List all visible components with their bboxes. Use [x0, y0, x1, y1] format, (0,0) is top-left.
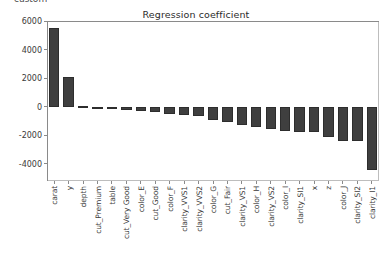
bar [323, 107, 333, 138]
x-axis-tick-label: color_J [338, 186, 347, 210]
bar [164, 107, 174, 114]
bar [222, 107, 232, 122]
y-axis: 6000400020000-2000-4000 [0, 21, 47, 181]
y-axis-tick-label: 0 [37, 102, 42, 111]
x-axis-tick-label: x [310, 186, 319, 190]
bar [294, 107, 304, 132]
x-axis-tick-mark [155, 181, 156, 184]
x-axis-tick-mark [213, 181, 214, 184]
y-axis-tick-label: -2000 [19, 131, 42, 140]
x-axis-tick-label: color_I [281, 186, 290, 210]
x-axis-tick-label: carat [50, 186, 59, 205]
bar [150, 107, 160, 113]
bar [251, 107, 261, 127]
x-axis-tick-label: cut_Very Good [122, 186, 131, 239]
x-axis-tick-label: color_H [252, 186, 261, 213]
x-axis-tick-mark [68, 181, 69, 184]
y-axis-tick-label: 2000 [22, 74, 42, 83]
x-axis-tick-mark [97, 181, 98, 184]
plot-area [47, 21, 379, 181]
x-axis-tick-label: y [64, 186, 73, 190]
bar [49, 28, 59, 107]
bar [237, 107, 247, 125]
x-axis-tick-label: color_G [209, 186, 218, 213]
x-axis-tick-label: cut_Fair [223, 186, 232, 214]
bar [352, 107, 362, 142]
bar [193, 107, 203, 116]
x-axis-tick-label: depth [79, 186, 88, 207]
bar [367, 107, 377, 171]
bar [280, 107, 290, 131]
x-axis-tick-mark [184, 181, 185, 184]
regression-coefficient-chart: Regression coefficient 6000400020000-200… [0, 4, 392, 262]
x-axis: caratydepthcut_Premiumtablecut_Very Good… [47, 181, 379, 261]
x-axis-tick-label: color_E [136, 186, 145, 212]
bar [78, 106, 88, 108]
x-axis-tick-mark [111, 181, 112, 184]
x-axis-tick-mark [270, 181, 271, 184]
x-axis-tick-mark [198, 181, 199, 184]
y-axis-tick-label: 4000 [22, 45, 42, 54]
x-axis-tick-label: clarity_SI1 [295, 186, 304, 224]
x-axis-tick-mark [357, 181, 358, 184]
x-axis-tick-mark [314, 181, 315, 184]
y-axis-tick-label: -4000 [19, 159, 42, 168]
bar [107, 107, 117, 109]
x-axis-tick-mark [140, 181, 141, 184]
bar [136, 107, 146, 112]
x-axis-tick-mark [371, 181, 372, 184]
x-axis-tick-mark [342, 181, 343, 184]
x-axis-tick-mark [169, 181, 170, 184]
x-axis-tick-label: z [324, 186, 333, 190]
bar [92, 107, 102, 109]
chart-title: Regression coefficient [0, 9, 392, 20]
x-axis-tick-label: clarity_I1 [367, 186, 376, 219]
bar [266, 107, 276, 129]
x-axis-tick-label: cut_Premium [93, 186, 102, 234]
x-axis-tick-mark [227, 181, 228, 184]
x-axis-tick-label: clarity_SI2 [353, 186, 362, 224]
x-axis-tick-label: clarity_VS2 [266, 186, 275, 227]
bar [309, 107, 319, 132]
bar [121, 107, 131, 110]
bar [63, 77, 73, 107]
bar [208, 107, 218, 121]
x-axis-tick-mark [54, 181, 55, 184]
x-axis-tick-label: table [107, 186, 116, 205]
x-axis-tick-mark [299, 181, 300, 184]
bar [338, 107, 348, 141]
x-axis-tick-label: clarity_VS1 [237, 186, 246, 227]
x-axis-tick-mark [285, 181, 286, 184]
bar-series [47, 21, 379, 181]
x-axis-tick-label: cut_Good [151, 186, 160, 221]
x-axis-tick-label: clarity_VVS1 [180, 186, 189, 232]
x-axis-tick-mark [256, 181, 257, 184]
x-axis-tick-mark [126, 181, 127, 184]
x-axis-tick-mark [328, 181, 329, 184]
x-axis-tick-label: color_F [165, 186, 174, 212]
bar [179, 107, 189, 115]
y-axis-tick-label: 6000 [22, 17, 42, 26]
x-axis-tick-mark [83, 181, 84, 184]
x-axis-tick-mark [241, 181, 242, 184]
x-axis-tick-label: clarity_VVS2 [194, 186, 203, 232]
